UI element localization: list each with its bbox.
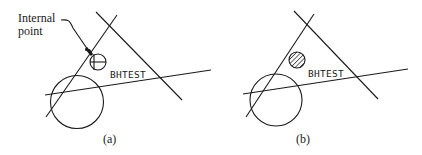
hatched-circle (289, 52, 305, 68)
line-rising (46, 15, 117, 117)
bhtest-label: BHTEST (110, 69, 146, 80)
annotation-point: point (18, 24, 43, 38)
leader-arrow (61, 20, 93, 55)
leader-curve (61, 20, 88, 50)
line-rising (246, 14, 314, 117)
figure-canvas: Internal point BHTEST (a) BHTEST (b) (0, 0, 422, 155)
caption-a: (a) (103, 132, 116, 146)
panel-b: BHTEST (b) (243, 11, 408, 146)
annotation-internal: Internal (18, 11, 56, 25)
bhtest-label: BHTEST (308, 68, 344, 79)
line-descending (294, 11, 378, 99)
panel-a: Internal point BHTEST (a) (18, 11, 211, 146)
large-circle (51, 76, 104, 129)
caption-b: (b) (296, 132, 310, 146)
line-descending (96, 12, 182, 100)
internal-point-marker (90, 54, 106, 70)
